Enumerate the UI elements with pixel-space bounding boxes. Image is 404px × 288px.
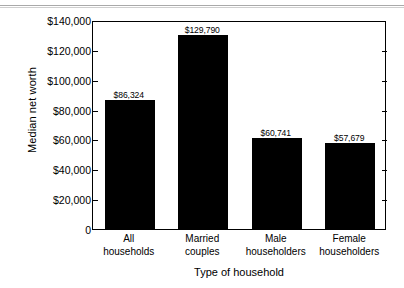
y-tick-label: $140,000 [1, 15, 91, 27]
y-tick-mark-left [93, 140, 98, 141]
bar [178, 35, 228, 229]
y-tick-mark-right [382, 51, 387, 52]
y-tick-mark-left [93, 51, 98, 52]
y-tick-label: $120,000 [1, 45, 91, 57]
y-tick-label: 0 [1, 224, 91, 236]
bar-value-label: $57,679 [309, 133, 389, 143]
bar-value-label: $60,741 [236, 128, 316, 138]
y-tick-mark-right [382, 170, 387, 171]
page-top-rule-shadow [0, 7, 404, 8]
y-tick-mark-right [382, 111, 387, 112]
y-tick-mark-right [382, 81, 387, 82]
y-tick-label: $80,000 [1, 105, 91, 117]
y-tick-label: $40,000 [1, 164, 91, 176]
x-category-label: Femalehouseholders [304, 233, 394, 258]
y-tick-mark-right [382, 200, 387, 201]
page-top-rule [0, 5, 404, 6]
x-axis-title: Type of household [92, 266, 386, 278]
bar [325, 143, 375, 229]
y-tick-mark-left [93, 170, 98, 171]
bar-value-label: $86,324 [89, 90, 169, 100]
y-tick-label: $60,000 [1, 134, 91, 146]
bar [105, 100, 155, 229]
y-tick-label: $100,000 [1, 75, 91, 87]
bar [252, 138, 302, 229]
y-tick-mark-left [93, 200, 98, 201]
bar-value-label: $129,790 [162, 25, 242, 35]
bar-chart-figure: Median net worth 0$20,000$40,000$60,000$… [0, 0, 404, 288]
y-tick-mark-left [93, 81, 98, 82]
plot-area: 0$20,000$40,000$60,000$80,000$100,000$12… [92, 21, 386, 230]
x-category-label-line: Female [304, 233, 394, 246]
x-category-label-line: householders [304, 246, 394, 259]
y-tick-label: $20,000 [1, 194, 91, 206]
y-tick-mark-left [93, 111, 98, 112]
